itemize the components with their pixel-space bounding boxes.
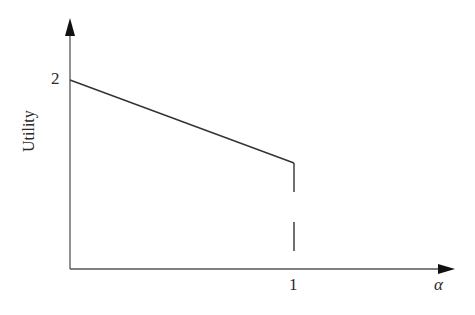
chart-canvas [0, 0, 475, 315]
utility-line [70, 80, 294, 163]
x-axis-label: α [434, 275, 443, 295]
y-tick-2: 2 [51, 69, 60, 89]
x-axis-arrow-icon [438, 264, 455, 274]
x-tick-1: 1 [289, 275, 298, 295]
y-axis-arrow-icon [65, 18, 75, 36]
y-axis-label: Utility [20, 110, 38, 152]
